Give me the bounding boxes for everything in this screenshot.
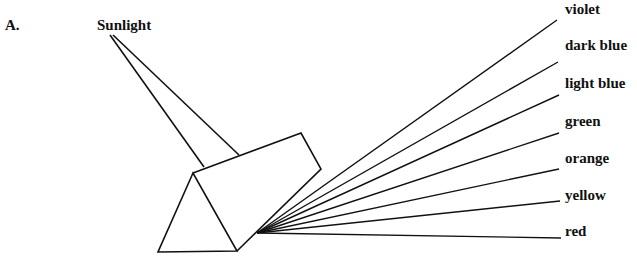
sunlight-beam-left <box>110 35 204 167</box>
ray-yellow <box>257 201 560 233</box>
sunlight-beam-right <box>113 35 239 155</box>
sunlight-label: Sunlight <box>97 18 151 33</box>
ray-dark-blue <box>257 62 558 233</box>
figure-label: A. <box>5 18 20 33</box>
label-light-blue: light blue <box>565 76 625 91</box>
label-dark-blue: dark blue <box>565 38 627 53</box>
label-yellow: yellow <box>565 188 606 203</box>
ray-red <box>257 233 561 238</box>
label-orange: orange <box>565 151 609 166</box>
label-violet: violet <box>565 2 600 17</box>
label-green: green <box>565 114 601 129</box>
ray-light-blue <box>257 95 559 233</box>
diagram-canvas <box>0 0 637 263</box>
prism-front-face <box>158 173 237 252</box>
prism-diagram: A. Sunlight violet dark blue light blue … <box>0 0 637 263</box>
label-red: red <box>565 224 586 239</box>
spectrum-rays <box>257 20 561 238</box>
